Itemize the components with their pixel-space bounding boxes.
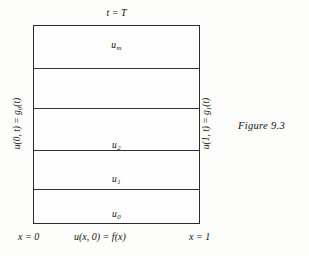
strip-label-um: um: [34, 40, 199, 51]
right-boundary-label: u(1, t) = g1(t): [201, 74, 212, 174]
strip-label-u1-sub: 1: [117, 178, 121, 185]
right-boundary-label-sub: 1: [205, 107, 212, 110]
x-one-label: x = 1: [189, 231, 210, 242]
strip-label-u0-sub: 0: [117, 213, 121, 220]
figure-9-3: t = T um u2 u1 u0 u(0, t) = g0(t) u(1, t…: [0, 0, 309, 256]
domain-rectangle: um u2 u1 u0: [33, 25, 200, 224]
strip-label-u1: u1: [34, 174, 199, 185]
right-boundary-label-tail: (t): [201, 98, 211, 107]
left-boundary-label-tail: (t): [12, 98, 22, 107]
strip-label-u2: u2: [34, 140, 199, 151]
grid-line-3: [34, 108, 199, 109]
grid-line-4: [34, 68, 199, 69]
strip-label-u0: u0: [34, 209, 199, 220]
top-boundary-label: t = T: [33, 7, 200, 18]
left-boundary-label: u(0, t) = g0(t): [12, 74, 23, 174]
right-boundary-label-main: u(1, t) = g: [201, 110, 211, 149]
left-boundary-label-sub: 0: [16, 107, 23, 110]
strip-label-um-sub: m: [116, 44, 122, 51]
x-zero-label: x = 0: [18, 231, 39, 242]
initial-condition-label: u(x, 0) = f(x): [74, 231, 126, 242]
grid-line-1: [34, 189, 199, 190]
figure-caption: Figure 9.3: [238, 120, 285, 131]
left-boundary-label-main: u(0, t) = g: [12, 110, 22, 149]
strip-label-u2-sub: 2: [117, 144, 121, 151]
